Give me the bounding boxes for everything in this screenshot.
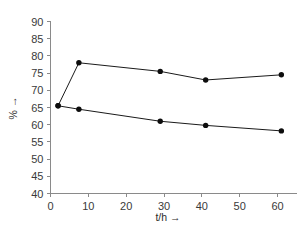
data-point-lower-curve — [279, 128, 284, 133]
data-point-upper-curve — [76, 60, 81, 65]
y-tick-label: 80 — [31, 50, 43, 62]
x-tick-label: 0 — [47, 200, 53, 212]
y-tick-label: 60 — [31, 119, 43, 131]
y-tick-label: 40 — [31, 188, 43, 200]
x-tick-label: 40 — [196, 200, 208, 212]
data-point-lower-curve — [55, 103, 60, 108]
y-tick-label: 70 — [31, 84, 43, 96]
data-point-upper-curve — [203, 77, 208, 82]
x-tick-label: 20 — [120, 200, 132, 212]
x-axis-title: t/h → — [155, 211, 180, 223]
data-point-upper-curve — [279, 72, 284, 77]
y-tick-label: 45 — [31, 170, 43, 182]
y-tick-label: 50 — [31, 153, 43, 165]
plot-background — [0, 0, 306, 234]
x-tick-label: 60 — [271, 200, 283, 212]
x-tick-label: 10 — [82, 200, 94, 212]
chart-figure: 40455055606570758085900102030405060t/h →… — [0, 0, 306, 234]
y-axis-title: % → — [7, 97, 19, 120]
y-tick-label: 65 — [31, 102, 43, 114]
x-tick-label: 50 — [234, 200, 246, 212]
data-point-lower-curve — [76, 107, 81, 112]
data-point-lower-curve — [158, 119, 163, 124]
y-tick-label: 85 — [31, 33, 43, 45]
line-chart: 40455055606570758085900102030405060t/h →… — [0, 0, 306, 234]
y-axis-title-group: % → — [7, 97, 19, 120]
data-point-lower-curve — [203, 123, 208, 128]
y-tick-label: 75 — [31, 67, 43, 79]
x-tick-label: 30 — [158, 200, 170, 212]
y-tick-label: 90 — [31, 16, 43, 28]
data-point-upper-curve — [158, 69, 163, 74]
y-tick-label: 55 — [31, 136, 43, 148]
